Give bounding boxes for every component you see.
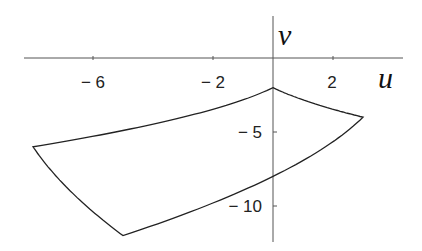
chart-svg: − 6 − 2 2 − 5 − 10 v u: [0, 0, 422, 251]
y-tick-label: − 5: [238, 123, 262, 142]
plot-area: − 6 − 2 2 − 5 − 10 v u: [0, 0, 422, 251]
x-tick-label: − 2: [201, 73, 225, 92]
y-tick-label: − 10: [228, 197, 262, 216]
x-axis-label: u: [378, 61, 393, 94]
y-axis-label: v: [278, 18, 292, 51]
region-boundary: [33, 88, 363, 236]
x-tick-label: 2: [327, 73, 336, 92]
x-tick-label: − 6: [81, 73, 105, 92]
